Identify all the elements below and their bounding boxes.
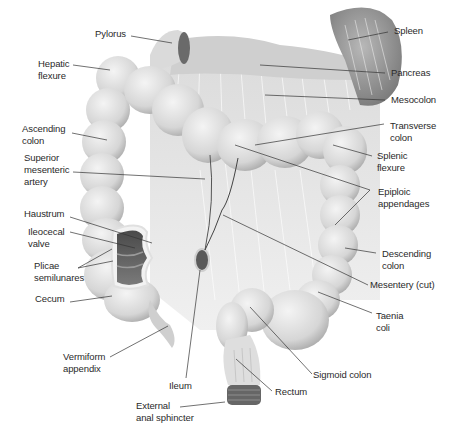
- label-ileum: Ileum: [169, 380, 192, 392]
- label-cecum: Cecum: [35, 293, 65, 305]
- pancreas-shape: [170, 36, 360, 80]
- rectum-shape: [223, 335, 260, 385]
- appendix-shape: [148, 300, 174, 348]
- label-mesentery-cut: Mesentery (cut): [370, 279, 435, 291]
- pylorus-opening: [178, 32, 190, 64]
- label-rectum: Rectum: [275, 386, 307, 398]
- label-vermiform-appendix: Vermiform appendix: [63, 351, 105, 375]
- label-plicae-semilunares: Plicae semilunares: [34, 260, 84, 284]
- label-ascending-colon: Ascending colon: [22, 123, 65, 147]
- label-splenic-flexure: Splenic flexure: [377, 150, 407, 174]
- label-hepatic-flexure: Hepatic flexure: [38, 58, 70, 82]
- label-sigmoid-colon: Sigmoid colon: [313, 369, 371, 381]
- label-superior-mesenteric-artery: Superior mesenteric artery: [24, 152, 69, 188]
- label-mesocolon: Mesocolon: [391, 94, 436, 106]
- label-haustrum: Haustrum: [24, 208, 64, 220]
- label-taenia-coli: Taenia coli: [376, 310, 403, 334]
- label-pylorus: Pylorus: [95, 28, 126, 40]
- label-spleen: Spleen: [394, 25, 423, 37]
- label-transverse-colon: Transverse colon: [390, 120, 436, 144]
- label-descending-colon: Descending colon: [382, 248, 431, 272]
- label-external-anal-sphincter: External anal sphincter: [136, 400, 194, 424]
- label-epiploic-appendages: Epiploic appendages: [378, 186, 429, 210]
- large-intestine-diagram: Pylorus Hepatic flexure Ascending colon …: [0, 0, 462, 436]
- label-ileocecal-valve: Ileocecal valve: [28, 226, 65, 250]
- ileum-shape: [195, 249, 209, 271]
- label-pancreas: Pancreas: [391, 67, 430, 79]
